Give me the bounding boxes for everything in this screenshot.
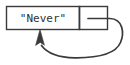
diagram-canvas: "Never" xyxy=(0,0,130,65)
car-cell-label: "Never" xyxy=(20,12,66,25)
pointer-arrowhead-icon xyxy=(36,30,45,46)
cons-cell-diagram: "Never" xyxy=(0,0,130,65)
